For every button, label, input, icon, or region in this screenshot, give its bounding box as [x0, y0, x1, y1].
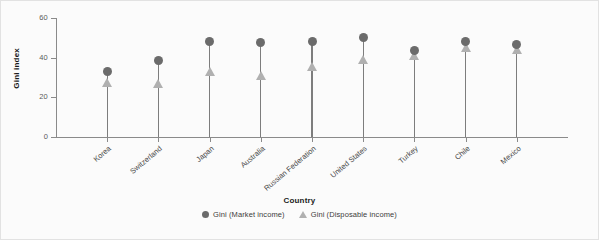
y-tick-mark [51, 18, 56, 19]
chart-figure: Gini index Country 0204060 KoreaSwitzerl… [0, 0, 599, 240]
y-tick-mark [51, 58, 56, 59]
stem-line [363, 38, 364, 137]
stem-line [209, 42, 210, 137]
y-tick-label: 20 [24, 92, 48, 101]
stem-line [516, 45, 517, 137]
y-tick-label: 40 [24, 53, 48, 62]
data-point-triangle [102, 78, 112, 87]
circle-icon [202, 211, 209, 218]
data-point-circle [103, 67, 112, 76]
stem-line [260, 43, 261, 137]
x-tick-mark [312, 137, 313, 142]
x-tick-mark [210, 137, 211, 142]
stem-line [465, 42, 466, 137]
x-tick-mark [414, 137, 415, 142]
data-point-circle [359, 33, 368, 42]
data-point-circle [256, 38, 265, 47]
y-tick-label: 60 [24, 13, 48, 22]
data-point-triangle [307, 62, 317, 71]
y-tick-mark [51, 97, 56, 98]
data-point-circle [205, 37, 214, 46]
x-tick-mark [466, 137, 467, 142]
y-axis-title: Gini index [12, 48, 21, 89]
x-tick-mark [261, 137, 262, 142]
data-point-circle [308, 37, 317, 46]
data-point-triangle [256, 71, 266, 80]
plot-area: 0204060 KoreaSwitzerlandJapanAustraliaRu… [56, 18, 568, 137]
legend-item-label: Gini (Market income) [213, 210, 285, 219]
triangle-icon [299, 211, 307, 218]
data-point-triangle [153, 79, 163, 88]
legend-item-label: Gini (Disposable income) [311, 210, 397, 219]
y-tick-mark [51, 137, 56, 138]
data-point-circle [154, 56, 163, 65]
legend-item[interactable]: Gini (Market income) [202, 210, 285, 219]
x-tick-mark [517, 137, 518, 142]
y-axis-line [56, 18, 57, 137]
data-point-triangle [205, 67, 215, 76]
data-point-triangle [358, 55, 368, 64]
x-tick-mark [158, 137, 159, 142]
y-tick-label: 0 [24, 132, 48, 141]
x-tick-mark [363, 137, 364, 142]
legend-item[interactable]: Gini (Disposable income) [299, 210, 397, 219]
stem-line [158, 60, 159, 137]
chart-legend: Gini (Market income)Gini (Disposable inc… [0, 210, 599, 219]
stem-line [414, 51, 415, 137]
x-tick-mark [107, 137, 108, 142]
stem-line [311, 42, 312, 137]
